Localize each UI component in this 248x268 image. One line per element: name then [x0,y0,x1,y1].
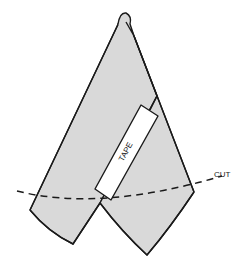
folded-fabric-diagram: TAPE CUT [0,0,248,268]
cut-label: CUT [214,170,231,179]
